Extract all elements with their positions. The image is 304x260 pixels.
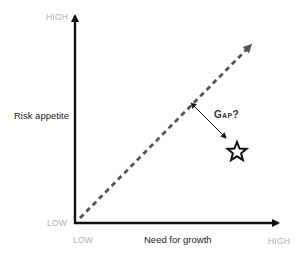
y-axis-title: Risk appetite — [14, 111, 69, 121]
dashed-trend-line — [80, 46, 250, 218]
star-icon — [228, 142, 247, 160]
y-axis-high-label: HIGH — [46, 13, 68, 22]
y-axis-low-label: LOW — [47, 219, 67, 228]
x-axis-low-label: LOW — [73, 236, 93, 245]
x-axis-high-label: HIGH — [268, 237, 290, 246]
x-axis-title: Need for growth — [144, 235, 212, 245]
gap-label: Gap? — [214, 110, 239, 120]
diagram-canvas — [0, 0, 304, 260]
